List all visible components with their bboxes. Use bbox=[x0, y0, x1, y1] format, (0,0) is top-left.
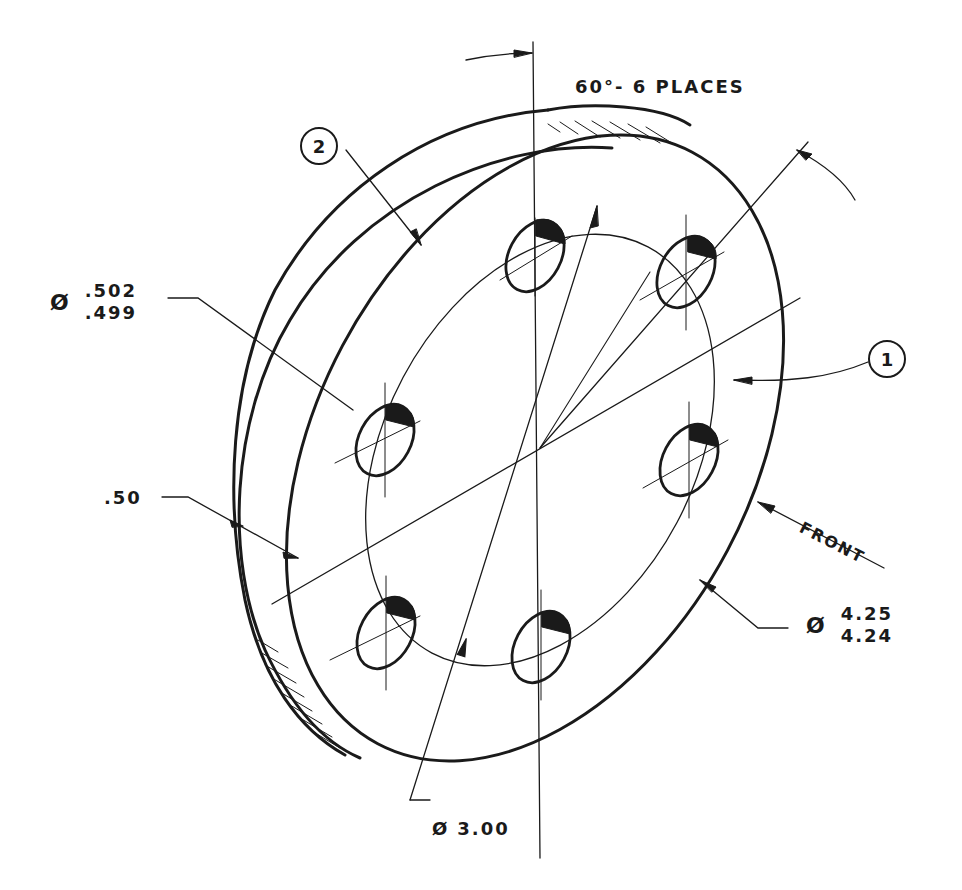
angle-reference-line bbox=[540, 142, 808, 448]
thickness-callout: .50 bbox=[104, 487, 142, 508]
hole-bottom-left bbox=[330, 576, 427, 690]
technical-drawing bbox=[0, 0, 962, 890]
hole-diameter-callout: Ø .502 .499 bbox=[50, 280, 137, 324]
balloon-2-leader bbox=[346, 150, 421, 245]
outer-tolerance-stack: 4.25 4.24 bbox=[841, 603, 893, 647]
thickness-leader bbox=[162, 497, 298, 558]
back-face-edge bbox=[234, 106, 690, 758]
hole-bottom bbox=[500, 590, 582, 700]
hole-top-right bbox=[640, 215, 727, 330]
balloon-1: 1 bbox=[868, 340, 906, 378]
hole-diameter-upper: .502 bbox=[85, 280, 137, 302]
hole-left bbox=[335, 383, 426, 497]
balloon-1-leader bbox=[734, 362, 868, 380]
hatching-bottom-left bbox=[258, 640, 340, 748]
hole-diameter-lower: .499 bbox=[85, 302, 137, 324]
hole-top bbox=[494, 210, 576, 302]
front-face-outline bbox=[185, 50, 885, 846]
diameter-symbol-icon: Ø bbox=[50, 290, 71, 315]
outer-diameter-upper: 4.25 bbox=[841, 603, 893, 625]
diameter-symbol-icon: Ø bbox=[806, 613, 827, 638]
bolt-circle-callout: Ø 3.00 bbox=[432, 818, 510, 839]
diameter-symbol-icon: Ø bbox=[432, 818, 449, 839]
bolt-circle-leader bbox=[410, 206, 597, 800]
hole-diameter-leader bbox=[168, 298, 353, 410]
balloon-2: 2 bbox=[300, 127, 338, 165]
outer-diameter-lower: 4.24 bbox=[841, 625, 893, 647]
outer-diameter-callout: Ø 4.25 4.24 bbox=[806, 603, 893, 647]
hole-tolerance-stack: .502 .499 bbox=[85, 280, 137, 324]
angle-note: 60°- 6 PLACES bbox=[575, 76, 745, 97]
bolt-circle-value: 3.00 bbox=[457, 818, 509, 839]
hole-right bbox=[643, 402, 730, 518]
balloon-1-label: 1 bbox=[881, 349, 894, 370]
balloon-2-label: 2 bbox=[313, 136, 326, 157]
